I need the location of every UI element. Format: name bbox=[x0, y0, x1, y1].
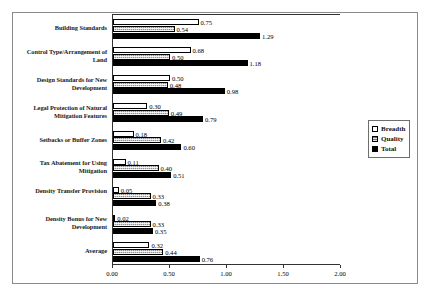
bar-quality bbox=[113, 54, 170, 60]
bar-row: 0.44 bbox=[113, 249, 340, 255]
bar-value-label: 0.44 bbox=[163, 249, 177, 256]
x-tick-label: 0.50 bbox=[163, 270, 175, 278]
x-tick-label: 0.00 bbox=[106, 270, 118, 278]
bar-breadth bbox=[113, 75, 170, 81]
bar-value-label: 0.40 bbox=[159, 165, 173, 172]
bar-group: 0.180.420.60 bbox=[113, 131, 340, 150]
bar-row: 0.42 bbox=[113, 137, 340, 143]
bar-row: 0.05 bbox=[113, 187, 340, 193]
bar-group: 0.500.480.98 bbox=[113, 75, 340, 94]
bar-quality bbox=[113, 165, 159, 171]
bar-value-label: 0.79 bbox=[203, 116, 217, 123]
bar-total bbox=[113, 88, 225, 94]
x-tick-label: 2.00 bbox=[334, 270, 346, 278]
bar-breadth bbox=[113, 47, 191, 53]
bar-row: 0.38 bbox=[113, 200, 340, 206]
bar-group: 0.110.400.51 bbox=[113, 159, 340, 178]
bar-value-label: 0.49 bbox=[169, 109, 183, 116]
bar-group: 0.320.440.76 bbox=[113, 242, 340, 261]
bar-value-label: 0.38 bbox=[156, 199, 170, 206]
bar-row: 0.33 bbox=[113, 193, 340, 199]
bar-value-label: 0.60 bbox=[181, 144, 195, 151]
legend-item: Quality bbox=[372, 134, 405, 144]
chart-legend: BreadthQualityTotal bbox=[368, 120, 410, 158]
x-tick-mark bbox=[340, 265, 341, 268]
bar-quality bbox=[113, 137, 161, 143]
bar-row: 0.35 bbox=[113, 228, 340, 234]
bar-total bbox=[113, 172, 171, 178]
x-axis: 0.000.501.001.502.00 bbox=[112, 265, 340, 285]
x-tick-mark bbox=[226, 265, 227, 268]
bar-value-label: 0.11 bbox=[126, 158, 139, 165]
bar-value-label: 0.32 bbox=[149, 242, 163, 249]
bar-value-label: 0.05 bbox=[119, 186, 133, 193]
bar-value-label: 0.51 bbox=[171, 171, 185, 178]
black-square-icon bbox=[372, 146, 378, 152]
bar-value-label: 0.75 bbox=[199, 19, 213, 26]
bar-value-label: 0.48 bbox=[168, 81, 182, 88]
bar-value-label: 0.35 bbox=[153, 227, 167, 234]
category-label: Average bbox=[11, 247, 107, 255]
bar-value-label: 0.30 bbox=[147, 103, 161, 110]
bar-breadth bbox=[113, 19, 199, 25]
bar-row: 0.98 bbox=[113, 88, 340, 94]
x-tick-mark bbox=[283, 265, 284, 268]
category-label: Design Standards for New Development bbox=[11, 76, 107, 92]
x-tick-label: 1.50 bbox=[277, 270, 289, 278]
bar-quality bbox=[113, 110, 169, 116]
bar-row: 0.40 bbox=[113, 165, 340, 171]
bar-total bbox=[113, 116, 203, 122]
plot-area: 0.750.541.290.680.501.180.500.480.980.30… bbox=[112, 14, 340, 265]
category-label: Building Standards bbox=[11, 24, 107, 32]
bar-quality bbox=[113, 221, 151, 227]
bar-row: 0.30 bbox=[113, 103, 340, 109]
bar-group: 0.680.501.18 bbox=[113, 47, 340, 66]
bar-chart-figure: Building StandardsControl Type/Arrangeme… bbox=[0, 0, 432, 297]
bar-row: 0.50 bbox=[113, 75, 340, 81]
bar-value-label: 0.98 bbox=[225, 88, 239, 95]
category-label: Density Transfer Provision bbox=[11, 187, 107, 195]
bar-quality bbox=[113, 82, 168, 88]
legend-item: Breadth bbox=[372, 124, 405, 134]
bar-row: 0.54 bbox=[113, 26, 340, 32]
bar-row: 0.68 bbox=[113, 47, 340, 53]
category-label: Tax Abatement for Using Mitigation bbox=[11, 159, 107, 175]
bar-group: 0.750.541.29 bbox=[113, 19, 340, 38]
x-tick-label: 1.00 bbox=[220, 270, 232, 278]
bar-total bbox=[113, 144, 181, 150]
bar-value-label: 0.50 bbox=[170, 53, 184, 60]
bar-value-label: 0.76 bbox=[200, 255, 214, 262]
hatched-square-icon bbox=[372, 136, 378, 142]
bar-value-label: 1.18 bbox=[248, 60, 262, 67]
bar-row: 0.75 bbox=[113, 19, 340, 25]
bar-value-label: 0.68 bbox=[191, 47, 205, 54]
bar-quality bbox=[113, 193, 151, 199]
legend-label: Quality bbox=[381, 135, 404, 143]
bar-row: 0.51 bbox=[113, 172, 340, 178]
category-axis-labels: Building StandardsControl Type/Arrangeme… bbox=[12, 14, 111, 265]
bar-row: 0.76 bbox=[113, 256, 340, 262]
white-square-icon bbox=[372, 126, 378, 132]
x-tick-mark bbox=[112, 265, 113, 268]
bar-breadth bbox=[113, 159, 126, 165]
bar-row: 0.32 bbox=[113, 242, 340, 248]
bar-row: 0.33 bbox=[113, 221, 340, 227]
legend-item: Total bbox=[372, 144, 405, 154]
bar-row: 1.18 bbox=[113, 60, 340, 66]
bar-breadth bbox=[113, 131, 134, 137]
bar-group: 0.050.330.38 bbox=[113, 187, 340, 206]
bar-breadth bbox=[113, 242, 149, 248]
bar-value-label: 0.54 bbox=[175, 25, 189, 32]
bar-total bbox=[113, 33, 260, 39]
bar-row: 1.29 bbox=[113, 33, 340, 39]
bar-total bbox=[113, 228, 153, 234]
bar-group: 0.300.490.79 bbox=[113, 103, 340, 122]
bar-value-label: 0.18 bbox=[134, 130, 148, 137]
bar-quality bbox=[113, 26, 175, 32]
bar-row: 0.48 bbox=[113, 82, 340, 88]
category-label: Density Bonus for New Development bbox=[11, 215, 107, 231]
bar-row: 0.02 bbox=[113, 215, 340, 221]
bar-quality bbox=[113, 249, 163, 255]
bar-value-label: 0.02 bbox=[115, 214, 129, 221]
bar-row: 0.18 bbox=[113, 131, 340, 137]
